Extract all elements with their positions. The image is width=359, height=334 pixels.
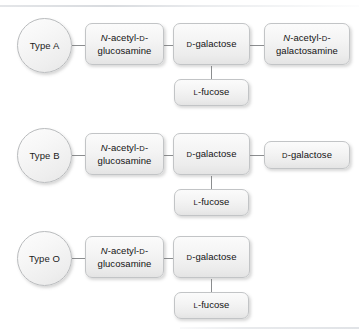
glcnac-acetyl: -acetyl- [108, 32, 140, 43]
node-type-b-terminal-galactose[interactable]: D-galactose [264, 141, 350, 169]
node-type-b-fucose[interactable]: L-fucose [174, 189, 249, 216]
node-type-b-circle[interactable]: Type B [17, 128, 72, 183]
glcnac-line2: glucosamine [98, 155, 152, 166]
type-a-galnac-label: N-acetyl-D- galactosamine [276, 32, 338, 57]
node-type-o-circle[interactable]: Type O [17, 231, 72, 286]
fucose-rest: -fucose [198, 299, 230, 310]
galnac-acetyl: -acetyl- [290, 32, 322, 43]
blood-type-antigen-diagram: Type A N-acetyl-D- glucosamine D-galacto… [0, 0, 359, 334]
connector-a-gal-to-terminal [250, 45, 264, 46]
node-type-b-galactose[interactable]: D-galactose [173, 133, 250, 175]
glcnac-italic-n: N [101, 32, 108, 43]
glcnac-line2: glucosamine [98, 258, 152, 269]
node-type-a-galactose[interactable]: D-galactose [173, 23, 250, 65]
type-b-glcnac-label: N-acetyl-D- glucosamine [98, 142, 152, 167]
scan-artifact-top [0, 5, 359, 7]
glcnac-italic-n: N [101, 245, 108, 256]
connector-b-gal-to-fucose [211, 176, 212, 189]
node-type-o-fucose[interactable]: L-fucose [174, 292, 249, 319]
node-type-a-circle[interactable]: Type A [17, 18, 72, 73]
fucose-rest: -fucose [198, 86, 230, 97]
glcnac-hyphen: - [145, 32, 148, 43]
type-o-label: Type O [29, 253, 60, 264]
node-type-o-glcnac[interactable]: N-acetyl-D- glucosamine [85, 236, 164, 278]
scan-artifact-bottom [180, 327, 359, 329]
glcnac-line2: glucosamine [98, 45, 152, 56]
type-b-galactose-label: D-galactose [186, 148, 236, 161]
galactose-rest: -galactose [192, 38, 236, 49]
type-a-galactose-label: D-galactose [186, 38, 236, 51]
glcnac-acetyl: -acetyl- [108, 245, 140, 256]
node-type-a-galnac[interactable]: N-acetyl-D- galactosamine [264, 23, 350, 65]
type-b-label: Type B [29, 150, 59, 161]
glcnac-hyphen: - [145, 245, 148, 256]
galnac-hyphen: - [327, 32, 330, 43]
node-type-b-glcnac[interactable]: N-acetyl-D- glucosamine [85, 133, 164, 175]
type-b-fucose-label: L-fucose [194, 196, 230, 209]
connector-a-circle-to-glcnac [72, 45, 86, 46]
type-a-glcnac-label: N-acetyl-D- glucosamine [98, 32, 152, 57]
node-type-a-glcnac[interactable]: N-acetyl-D- glucosamine [85, 23, 164, 65]
type-o-fucose-label: L-fucose [194, 299, 230, 312]
type-a-fucose-label: L-fucose [194, 86, 230, 99]
node-type-o-galactose[interactable]: D-galactose [173, 236, 250, 278]
galnac-line2: galactosamine [276, 45, 338, 56]
galactose-rest: -galactose [192, 148, 236, 159]
connector-b-gal-to-terminal [250, 155, 264, 156]
connector-b-circle-to-glcnac [72, 155, 86, 156]
type-o-glcnac-label: N-acetyl-D- glucosamine [98, 245, 152, 270]
type-a-label: Type A [30, 40, 60, 51]
type-o-galactose-label: D-galactose [186, 251, 236, 264]
glcnac-acetyl: -acetyl- [108, 142, 140, 153]
type-b-terminal-label: D-galactose [282, 149, 332, 162]
fucose-rest: -fucose [198, 196, 230, 207]
connector-o-circle-to-glcnac [72, 258, 86, 259]
glcnac-hyphen: - [145, 142, 148, 153]
node-type-a-fucose[interactable]: L-fucose [174, 79, 249, 106]
glcnac-italic-n: N [101, 142, 108, 153]
terminal-rest: -galactose [288, 149, 332, 160]
galactose-rest: -galactose [192, 251, 236, 262]
connector-a-gal-to-fucose [211, 66, 212, 79]
connector-o-gal-to-fucose [211, 279, 212, 292]
